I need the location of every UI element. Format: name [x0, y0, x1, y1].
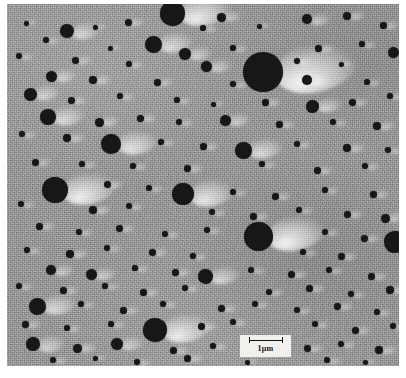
- particle: [40, 109, 56, 125]
- particle: [22, 321, 29, 328]
- particle: [190, 253, 196, 259]
- particle: [339, 62, 344, 67]
- scale-bar-tick-right: [282, 337, 283, 343]
- particle: [349, 99, 356, 106]
- particle: [330, 119, 336, 125]
- particle: [362, 163, 368, 169]
- particle: [108, 46, 113, 51]
- particle: [300, 249, 306, 255]
- particle: [101, 134, 121, 154]
- particle: [315, 45, 322, 52]
- particle: [89, 76, 97, 84]
- particle: [381, 214, 390, 223]
- particle: [172, 183, 194, 205]
- particle: [272, 193, 279, 200]
- particle: [63, 134, 71, 142]
- particle: [235, 142, 252, 159]
- particle: [162, 231, 168, 237]
- particle: [73, 344, 82, 353]
- particle: [60, 24, 74, 38]
- particle: [64, 325, 70, 331]
- particle: [201, 61, 212, 72]
- particle: [217, 13, 226, 22]
- particle: [252, 301, 258, 307]
- particle: [16, 283, 22, 289]
- particle: [46, 265, 56, 275]
- particle: [158, 139, 164, 145]
- particle: [288, 271, 295, 278]
- particle: [385, 147, 391, 153]
- particle: [130, 163, 136, 169]
- particle: [126, 203, 132, 209]
- particle: [93, 25, 98, 30]
- particle: [262, 99, 269, 106]
- particle: [140, 289, 147, 296]
- particle: [60, 287, 67, 294]
- particle: [230, 319, 236, 325]
- particle: [302, 14, 312, 24]
- particle: [174, 97, 180, 103]
- particle: [36, 223, 43, 230]
- particle: [102, 283, 108, 289]
- particle: [230, 189, 236, 195]
- particle: [176, 119, 182, 125]
- particle: [338, 253, 345, 260]
- particle: [375, 346, 383, 354]
- particle: [72, 57, 79, 64]
- particle: [104, 181, 111, 188]
- particle: [19, 131, 25, 137]
- particle: [117, 93, 123, 99]
- particle: [359, 41, 365, 47]
- micrograph-plate: [7, 4, 399, 366]
- particle: [16, 53, 22, 59]
- particle: [250, 213, 257, 220]
- particle: [387, 93, 393, 99]
- particle: [146, 185, 152, 191]
- particle: [324, 357, 330, 363]
- particle: [220, 115, 231, 126]
- particle: [198, 323, 205, 330]
- particle: [149, 249, 156, 256]
- particle: [200, 25, 206, 31]
- particle: [32, 159, 39, 166]
- particle: [294, 58, 300, 64]
- particle: [137, 115, 144, 122]
- particle: [294, 141, 300, 147]
- particle: [343, 12, 351, 20]
- particle: [108, 321, 114, 327]
- particle: [364, 79, 370, 85]
- particle: [145, 36, 162, 53]
- particle: [86, 269, 97, 280]
- particle: [76, 229, 82, 235]
- particle: [361, 235, 368, 242]
- particle: [43, 37, 49, 43]
- particle: [50, 357, 56, 363]
- particle: [322, 229, 328, 235]
- particle: [266, 289, 272, 295]
- particle: [373, 122, 381, 130]
- particle: [24, 247, 30, 253]
- particle: [209, 209, 215, 215]
- particle: [24, 21, 29, 26]
- particle: [312, 321, 318, 327]
- particle: [66, 250, 74, 258]
- particle: [184, 355, 191, 362]
- particle: [368, 273, 375, 280]
- scale-bar-line: [249, 340, 283, 341]
- scale-bar-graphic: [249, 337, 283, 343]
- particle: [352, 327, 359, 334]
- particle: [248, 267, 254, 273]
- particle: [322, 187, 328, 193]
- particle: [18, 201, 24, 207]
- particle: [143, 318, 167, 342]
- particle: [306, 285, 313, 292]
- particle: [334, 303, 341, 310]
- particle: [111, 338, 123, 350]
- particle: [160, 4, 185, 26]
- particle: [104, 245, 110, 251]
- particle: [344, 211, 351, 218]
- particle: [244, 222, 273, 251]
- particle: [78, 301, 84, 307]
- particle: [68, 97, 75, 104]
- particle: [294, 307, 300, 313]
